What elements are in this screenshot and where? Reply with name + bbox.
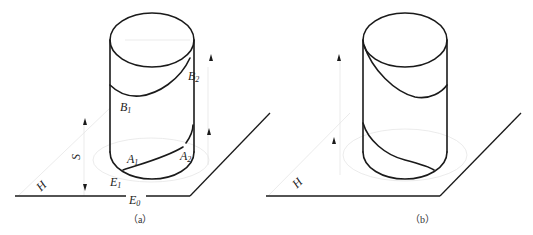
- label-s: S: [69, 154, 83, 160]
- label-b1: B1: [120, 100, 131, 115]
- arrow-up-icon: [337, 54, 341, 61]
- construction-lines-b: [268, 60, 467, 196]
- diagram-canvas: B1 B2 A1 A2 E1 E0 S H （a）: [0, 0, 533, 235]
- cylinder-b: [363, 13, 447, 179]
- label-h-b: H: [289, 174, 307, 192]
- arrow-up-icon: [209, 54, 213, 61]
- label-a1: A1: [126, 152, 138, 167]
- label-b2: B2: [188, 69, 199, 84]
- ground-plane-b: [266, 113, 521, 196]
- label-a2: A2: [179, 149, 191, 164]
- ground-plane-a: [15, 113, 270, 196]
- helix-curves-b: [363, 45, 447, 170]
- figure-b: H （b）: [266, 13, 521, 225]
- figure-a: B1 B2 A1 A2 E1 E0 S H （a）: [15, 13, 270, 225]
- label-e0: E0: [128, 193, 140, 208]
- arrow-up-icon: [332, 137, 336, 144]
- caption-a: （a）: [128, 214, 152, 225]
- label-e1: E1: [109, 175, 121, 190]
- caption-b: （b）: [410, 214, 435, 225]
